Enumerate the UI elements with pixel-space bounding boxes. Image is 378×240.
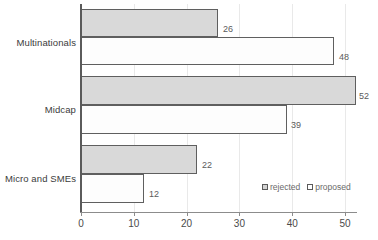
legend: rejected proposed xyxy=(262,182,351,192)
legend-label-proposed: proposed xyxy=(315,182,350,192)
xtick-label-30: 30 xyxy=(234,219,245,229)
xtick-mark-40 xyxy=(292,212,293,216)
xtick-mark-30 xyxy=(239,212,240,216)
category-label-midcap: Midcap xyxy=(45,105,76,115)
xtick-label-10: 10 xyxy=(128,219,139,229)
xtick-mark-20 xyxy=(187,212,188,216)
bar-multinationals-proposed[interactable] xyxy=(81,37,334,65)
bar-midcap-proposed[interactable] xyxy=(81,105,287,134)
xtick-mark-10 xyxy=(134,212,135,216)
value-label-midcap-rejected: 52 xyxy=(359,92,369,101)
category-axis-line xyxy=(80,212,357,213)
category-label-multinationals: Multinationals xyxy=(17,38,77,48)
bar-micro-and-smes-proposed[interactable] xyxy=(81,174,144,203)
legend-item-rejected[interactable]: rejected xyxy=(262,182,300,192)
bar-micro-and-smes-rejected[interactable] xyxy=(81,145,197,174)
value-label-midcap-proposed: 39 xyxy=(291,121,301,130)
legend-swatch-proposed-icon xyxy=(307,184,313,190)
value-label-micro-and-smes-rejected: 22 xyxy=(202,161,212,170)
legend-item-proposed[interactable]: proposed xyxy=(307,182,350,192)
legend-swatch-rejected-icon xyxy=(262,184,268,190)
bar-midcap-rejected[interactable] xyxy=(81,76,356,105)
gridline-50 xyxy=(345,4,346,212)
bar-chart: Multinationals Midcap Micro and SMEs 26 … xyxy=(0,0,378,240)
category-label-micro-and-smes: Micro and SMEs xyxy=(5,174,76,184)
xtick-mark-0 xyxy=(81,212,82,216)
xtick-label-50: 50 xyxy=(339,219,350,229)
xtick-label-40: 40 xyxy=(287,219,298,229)
xtick-label-20: 20 xyxy=(181,219,192,229)
xtick-mark-50 xyxy=(345,212,346,216)
gridline-40 xyxy=(292,4,293,212)
legend-label-rejected: rejected xyxy=(270,182,300,192)
value-label-micro-and-smes-proposed: 12 xyxy=(149,190,159,199)
value-label-multinationals-proposed: 48 xyxy=(339,53,349,62)
plot-area xyxy=(81,4,355,212)
value-label-multinationals-rejected: 26 xyxy=(223,25,233,34)
xtick-label-0: 0 xyxy=(78,219,84,229)
value-axis-line xyxy=(80,4,82,213)
bar-multinationals-rejected[interactable] xyxy=(81,9,218,37)
